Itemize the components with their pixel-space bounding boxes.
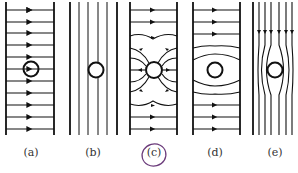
- panel-e: [253, 2, 294, 135]
- panel-d: [193, 2, 240, 135]
- panel-b: [70, 2, 117, 135]
- panel-a: [6, 2, 54, 135]
- label-c: (c): [134, 146, 174, 159]
- label-a: (a): [11, 146, 51, 159]
- label-e: (e): [255, 146, 295, 159]
- label-b: (b): [73, 146, 113, 159]
- label-d: (d): [195, 146, 235, 159]
- panel-c: [130, 2, 177, 135]
